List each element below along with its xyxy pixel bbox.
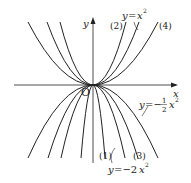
y-axis-arrow-icon (91, 17, 96, 24)
curve-label-2: (2) (110, 21, 123, 31)
equation-y-equals-neg-2x-squared: y =−2 x 2 (107, 161, 149, 175)
equation-y-equals-neg-half-x-squared: y =− 1 2 x 2 (138, 96, 179, 114)
x-axis-arrow-icon (171, 83, 178, 88)
leader-lines (111, 22, 148, 163)
equation-y-equals-x-squared: y = x 2 (121, 7, 147, 21)
svg-text:2: 2 (162, 106, 166, 114)
svg-text:=−2: =−2 (114, 164, 137, 175)
parabola-diagram: y x O (2) (4) (1) (3) y = x 2 y =− 1 2 x… (0, 0, 191, 183)
origin-label: O (81, 86, 90, 99)
svg-text:=−: =− (145, 99, 162, 110)
svg-text:1: 1 (162, 97, 166, 105)
curve-label-3: (3) (133, 151, 146, 161)
svg-text:2: 2 (175, 96, 179, 103)
svg-text:2: 2 (145, 161, 149, 168)
svg-text:y: y (107, 164, 114, 175)
curve-label-4: (4) (159, 21, 172, 31)
curve-label-1: (1) (99, 151, 112, 161)
svg-text:y: y (121, 10, 128, 21)
svg-text:y: y (138, 99, 145, 110)
svg-text:2: 2 (143, 7, 147, 14)
y-axis-label: y (82, 18, 89, 29)
svg-text:=: = (128, 10, 136, 21)
